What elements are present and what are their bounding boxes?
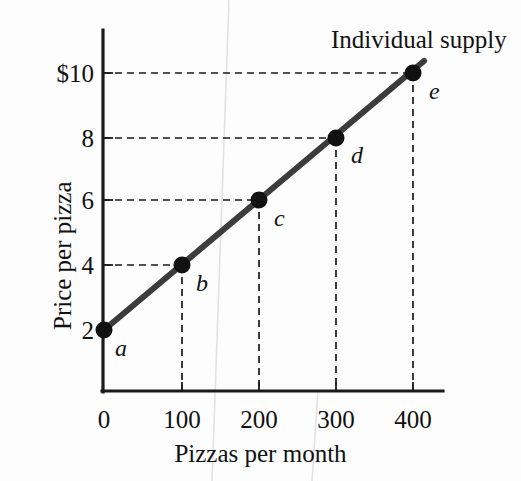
point-label-d: d [351, 143, 363, 167]
point-label-a: a [115, 336, 127, 360]
x-tick-label-300: 300 [306, 407, 366, 432]
data-point-e [405, 65, 422, 82]
y-tick-label-8: 8 [18, 126, 94, 151]
data-point-a [96, 322, 113, 339]
y-tick-label-10: $10 [18, 61, 94, 86]
data-point-d [328, 130, 345, 147]
y-axis-title-label: Price per pizza [50, 181, 75, 330]
x-tick-label-200: 200 [229, 407, 289, 432]
x-tick-label-400: 400 [383, 407, 443, 432]
point-label-e: e [429, 79, 440, 103]
x-tick-label-100: 100 [152, 407, 212, 432]
point-label-c: c [274, 206, 285, 230]
x-tick-label-0: 0 [74, 407, 134, 432]
curve-title-label: Individual supply [331, 27, 507, 52]
scan-artifact-line-secondary [312, 390, 318, 481]
supply-curve-figure: Individual supply $10 8 6 4 2 0 100 200 … [0, 0, 521, 481]
x-axis-title-label: Pizzas per month [0, 441, 521, 466]
point-label-b: b [196, 271, 208, 295]
data-point-b [174, 257, 191, 274]
data-point-c [251, 192, 268, 209]
